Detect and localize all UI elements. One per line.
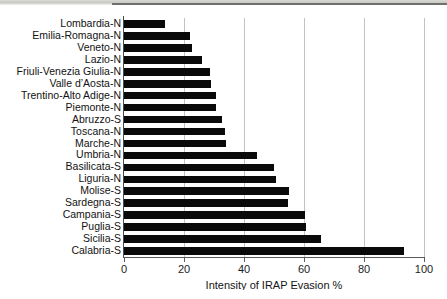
- category-label: Marche-N: [0, 137, 121, 149]
- bar-basilicata-s: [124, 164, 274, 172]
- category-label: Trentino-Alto Adige-N: [0, 89, 121, 101]
- category-label: Veneto-N: [0, 41, 121, 53]
- x-axis-line: [123, 257, 425, 258]
- bar-row: Valle d’Aosta-N: [124, 78, 211, 90]
- bar-row: Marche-N: [124, 138, 226, 150]
- x-tick-label-0: 0: [121, 263, 127, 275]
- category-label: Calabria-S: [0, 244, 121, 256]
- irap-evasion-bar-chart: Intensity of IRAP Evasion % 020406080100…: [0, 0, 447, 299]
- bar-row: Campania-S: [124, 209, 305, 221]
- page-bottom-margin: [0, 290, 447, 299]
- category-label: Lombardia-N: [0, 17, 121, 29]
- x-tick-0: [124, 257, 125, 262]
- category-label: Basilicata-S: [0, 160, 121, 172]
- category-label: Molise-S: [0, 184, 121, 196]
- category-label: Lazio-N: [0, 53, 121, 65]
- bar-puglia-s: [124, 223, 306, 231]
- x-tick-label-20: 20: [178, 263, 190, 275]
- bar-row: Basilicata-S: [124, 161, 274, 173]
- bar-row: Friuli-Venezia Giulia-N: [124, 66, 210, 78]
- category-label: Valle d’Aosta-N: [0, 77, 121, 89]
- bar-row: Calabria-S: [124, 245, 404, 257]
- bar-row: Sardegna-S: [124, 197, 288, 209]
- x-tick-80: [364, 257, 365, 262]
- x-tick-40: [244, 257, 245, 262]
- bar-row: Molise-S: [124, 185, 289, 197]
- x-tick-20: [184, 257, 185, 262]
- bar-valle-d-aosta-n: [124, 80, 211, 88]
- bar-row: Emilia-Romagna-N: [124, 30, 190, 42]
- bar-row: Toscana-N: [124, 126, 225, 138]
- category-label: Puglia-S: [0, 220, 121, 232]
- bar-umbria-n: [124, 152, 257, 160]
- bar-abruzzo-s: [124, 116, 222, 124]
- bar-molise-s: [124, 187, 289, 195]
- bar-marche-n: [124, 140, 226, 148]
- bar-row: Abruzzo-S: [124, 114, 222, 126]
- bar-toscana-n: [124, 128, 225, 136]
- bar-row: Liguria-N: [124, 173, 276, 185]
- bar-veneto-n: [124, 44, 192, 52]
- bar-row: Piemonte-N: [124, 102, 216, 114]
- x-tick-60: [304, 257, 305, 262]
- bar-row: Lombardia-N: [124, 18, 165, 30]
- gridline-100: [424, 18, 425, 257]
- x-tick-100: [424, 257, 425, 262]
- bar-lombardia-n: [124, 20, 165, 28]
- category-label: Piemonte-N: [0, 101, 121, 113]
- bar-row: Puglia-S: [124, 221, 306, 233]
- category-label: Friuli-Venezia Giulia-N: [0, 65, 121, 77]
- category-label: Umbria-N: [0, 148, 121, 160]
- bar-emilia-romagna-n: [124, 32, 190, 40]
- category-label: Abruzzo-S: [0, 113, 121, 125]
- bar-campania-s: [124, 211, 305, 219]
- category-label: Sardegna-S: [0, 196, 121, 208]
- bar-row: Umbria-N: [124, 149, 257, 161]
- x-tick-label-80: 80: [358, 263, 370, 275]
- bar-sicilia-s: [124, 235, 321, 243]
- bar-row: Veneto-N: [124, 42, 192, 54]
- category-label: Liguria-N: [0, 172, 121, 184]
- bar-liguria-n: [124, 176, 276, 184]
- bar-piemonte-n: [124, 104, 216, 112]
- x-tick-label-60: 60: [298, 263, 310, 275]
- bar-calabria-s: [124, 247, 404, 255]
- bar-lazio-n: [124, 56, 202, 64]
- gridline-80: [364, 18, 365, 257]
- bar-sardegna-s: [124, 199, 288, 207]
- category-label: Toscana-N: [0, 125, 121, 137]
- bar-friuli-venezia-giulia-n: [124, 68, 210, 76]
- x-tick-label-100: 100: [415, 263, 433, 275]
- bar-row: Trentino-Alto Adige-N: [124, 90, 216, 102]
- category-label: Sicilia-S: [0, 232, 121, 244]
- bar-row: Lazio-N: [124, 54, 202, 66]
- bar-row: Sicilia-S: [124, 233, 321, 245]
- category-label: Emilia-Romagna-N: [0, 29, 121, 41]
- x-tick-label-40: 40: [238, 263, 250, 275]
- category-label: Campania-S: [0, 208, 121, 220]
- bar-trentino-alto-adige-n: [124, 92, 216, 100]
